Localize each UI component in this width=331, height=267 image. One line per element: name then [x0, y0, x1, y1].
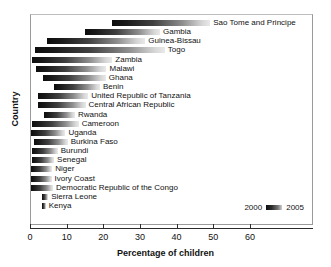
bar [32, 121, 79, 127]
bars-container: Sao Tome and PrincipeGambiaGuinea-Bissau… [31, 15, 312, 224]
x-axis-line: 0102030405060 [30, 228, 313, 229]
plot-area: Sao Tome and PrincipeGambiaGuinea-Bissau… [30, 14, 313, 225]
bar-category-label: Burkina Faso [71, 137, 118, 146]
x-axis-tick [103, 224, 104, 228]
bar-category-label: Guinea-Bissau [148, 36, 200, 45]
x-axis-tick [250, 224, 251, 228]
bar [42, 194, 48, 200]
bar [31, 130, 65, 136]
bar [32, 57, 112, 63]
x-axis-tick-label: 0 [27, 232, 32, 242]
bar-category-label: United Republic of Tanzania [91, 91, 190, 100]
bar [38, 93, 88, 99]
x-axis-tick-label: 40 [172, 232, 182, 242]
bar-category-label: Sierra Leone [51, 192, 97, 201]
bar [32, 148, 58, 154]
bar-category-label: Cameroon [82, 119, 119, 128]
bar-category-label: Democratic Republic of the Congo [56, 183, 178, 192]
x-axis-tick-label: 30 [135, 232, 145, 242]
legend-gradient-swatch [266, 205, 282, 210]
bar [32, 157, 54, 163]
x-axis-tick-label: 50 [208, 232, 218, 242]
chart-figure: Country Sao Tome and PrincipeGambiaGuine… [0, 0, 331, 267]
x-axis-tick [213, 224, 214, 228]
bar [85, 29, 160, 35]
bar [47, 38, 145, 44]
bar-category-label: Rwanda [78, 110, 107, 119]
bar [54, 84, 99, 90]
bar [31, 176, 52, 182]
x-axis-tick [30, 224, 31, 228]
bar-category-label: Ghana [109, 73, 133, 82]
x-axis-title: Percentage of children [0, 248, 331, 258]
bar [44, 112, 75, 118]
x-axis-tick [177, 224, 178, 228]
x-axis-tick-label: 60 [245, 232, 255, 242]
bar-category-label: Sao Tome and Principe [213, 18, 296, 27]
legend-start-label: 2000 [244, 203, 262, 212]
y-axis-title: Country [10, 69, 20, 149]
bar [35, 47, 165, 53]
bar [31, 166, 52, 172]
bar-category-label: Zambia [115, 55, 142, 64]
bar [42, 203, 46, 209]
bar-category-label: Uganda [68, 128, 96, 137]
bar-category-label: Burundi [61, 146, 89, 155]
bar [112, 20, 210, 26]
bar-category-label: Central African Republic [89, 100, 175, 109]
bar-category-label: Togo [168, 45, 185, 54]
bar-category-label: Gambia [163, 27, 191, 36]
bar [34, 139, 67, 145]
bar-category-label: Senegal [57, 155, 86, 164]
x-axis-tick [67, 224, 68, 228]
bar-category-label: Ivory Coast [55, 174, 95, 183]
bar [36, 66, 107, 72]
bar [43, 75, 105, 81]
bar-category-label: Benin [103, 82, 123, 91]
x-axis-tick-label: 20 [98, 232, 108, 242]
x-axis-tick [140, 224, 141, 228]
chart-legend: 2000 2005 [244, 203, 304, 212]
bar-category-label: Malawi [109, 64, 134, 73]
legend-end-label: 2005 [286, 203, 304, 212]
x-axis-tick-label: 10 [62, 232, 72, 242]
bar [31, 185, 53, 191]
bar-category-label: Kenya [49, 201, 72, 210]
bar [38, 102, 86, 108]
bar-category-label: Niger [55, 164, 74, 173]
